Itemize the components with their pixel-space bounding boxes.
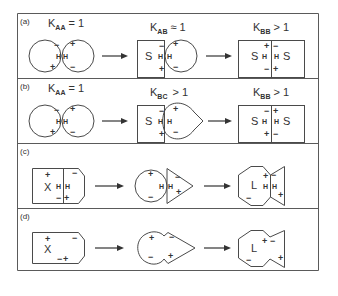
arrow-icon [208,118,232,124]
svg-text:H: H [262,118,267,125]
panel-label: (a) [20,17,30,26]
svg-text:−: − [54,40,59,50]
svg-text:−: − [148,252,153,262]
ligand-shape: L + − − + [239,231,285,268]
svg-text:S: S [145,115,152,127]
svg-text:+: + [262,236,267,246]
svg-text:KBB> 1: KBB> 1 [253,86,289,100]
svg-text:S: S [145,50,152,62]
svg-text:H: H [65,183,70,190]
svg-text:H: H [158,53,163,60]
hexagon-triangle-ligand: L H H + − − + [239,167,285,206]
svg-text:H: H [159,183,164,190]
arrow-icon [204,183,231,189]
svg-text:−: − [273,129,278,139]
svg-text:H: H [56,53,61,60]
panel-label: (b) [20,82,30,91]
svg-text:+: + [173,39,178,49]
panel-c: (c) X H H + − + − H H + − − + [20,147,285,206]
svg-text:−: − [54,105,59,115]
panel-a: (a) KAA= 1 KAB≈ 1 KBB> 1 H H − + + − [20,17,305,78]
svg-text:H: H [274,53,279,60]
svg-text:S: S [251,115,258,127]
keyhole-shape: + − − + [138,232,195,264]
svg-text:−: − [57,254,62,264]
double-square-bb: S H H S − + + − [239,106,305,143]
svg-text:+: + [45,234,50,244]
svg-text:−: − [273,41,278,51]
k-label-bb: KBB> 1 [253,21,289,35]
svg-text:+: + [64,193,69,203]
svg-text:−: − [70,62,75,72]
svg-text:+: + [45,170,50,180]
svg-text:L: L [251,179,257,191]
svg-text:+: + [50,127,55,137]
svg-text:+: + [50,62,55,72]
k-label-aa: KAA= 1 [48,82,84,96]
svg-text:+: + [176,187,181,197]
svg-text:+: + [159,129,164,139]
svg-text:−: − [264,106,269,116]
circle-pair-aa: H H − + + − [29,104,94,137]
svg-text:−: − [271,170,276,180]
svg-text:+: + [149,233,154,243]
svg-text:H: H [167,118,172,125]
svg-text:+: + [273,106,278,116]
svg-text:+: + [63,254,68,264]
x-receptor-complex: X H H + − + − [33,168,85,204]
binding-diagram: (a) KAA= 1 KAB≈ 1 KBB> 1 H H − + + − [0,0,338,296]
svg-text:H: H [63,53,68,60]
k-label-aa: KAA= 1 [48,17,84,31]
x-receptor: X + − − + [33,233,85,265]
svg-text:+: + [278,253,283,263]
svg-text:H: H [168,183,173,190]
k-label-bc: KBC> 1 [150,86,188,100]
svg-text:+: + [278,190,283,200]
svg-text:H: H [274,118,279,125]
svg-text:H: H [167,53,172,60]
svg-text:−: − [159,41,164,51]
svg-text:−: − [70,127,75,137]
svg-text:H: H [63,118,68,125]
svg-text:KAA= 1: KAA= 1 [48,82,84,96]
svg-text:−: − [148,192,153,202]
svg-text:−: − [173,127,178,137]
svg-text:H: H [158,118,163,125]
svg-text:KAA= 1: KAA= 1 [48,17,84,31]
square-circle-ab: S H H − + + − [138,39,198,78]
arrow-icon [95,183,124,189]
svg-text:−: − [56,193,61,203]
svg-text:+: + [263,171,268,181]
svg-text:+: + [70,104,75,114]
svg-text:L: L [251,242,257,254]
circle-pair-aa: H H − + + − [29,39,94,72]
panel-label: (d) [20,212,30,221]
circle-triangle-pair: H H + − − + [135,169,193,204]
svg-text:S: S [251,50,258,62]
svg-text:−: − [159,106,164,116]
svg-text:X: X [44,243,52,255]
svg-text:+: + [264,41,269,51]
svg-text:H: H [263,183,268,190]
panel-label: (c) [20,147,30,156]
svg-text:−: − [264,64,269,74]
svg-text:H: H [272,183,277,190]
svg-text:−: − [72,233,77,243]
svg-text:S: S [283,50,290,62]
svg-text:+: + [264,129,269,139]
arrow-icon [102,118,128,124]
panel-d: (d) X + − − + + − − + L + − [20,212,285,268]
arrow-icon [206,53,232,59]
arrow-icon [95,245,124,251]
svg-text:−: − [270,236,275,246]
svg-text:H: H [262,53,267,60]
svg-text:H: H [56,118,61,125]
svg-text:−: − [169,232,174,242]
svg-text:H: H [56,183,61,190]
svg-text:−: − [72,168,77,178]
svg-text:−: − [246,193,251,203]
svg-text:+: + [70,39,75,49]
svg-text:KBB> 1: KBB> 1 [253,21,289,35]
svg-text:−: − [246,255,251,265]
square-teardrop-bc: S H H − + + − [138,103,204,142]
